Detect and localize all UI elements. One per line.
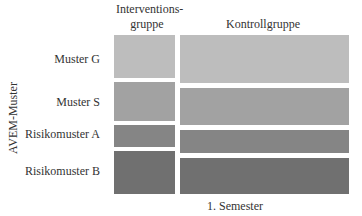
tile-kontroll-risikomuster-b (180, 158, 349, 194)
tile-kontroll-muster-s (180, 88, 349, 125)
tile-intervention-muster-s (114, 82, 175, 121)
tile-intervention-risikomuster-b (114, 151, 175, 194)
column-label-intervention: Interventions- gruppe (116, 2, 178, 32)
tile-kontroll-muster-g (180, 35, 349, 83)
column-label-intervention-line1: Interventions- (116, 2, 178, 17)
tile-intervention-muster-g (114, 35, 175, 78)
tile-kontroll-risikomuster-a (180, 130, 349, 153)
column-label-kontroll: Kontrollgruppe (226, 17, 300, 32)
x-axis-label: 1. Semester (207, 199, 263, 214)
y-axis-label: AVEM-Muster (6, 82, 21, 154)
tile-intervention-risikomuster-a (114, 125, 175, 147)
row-label-risikomuster-b: Risikomuster B (0, 164, 100, 179)
row-label-muster-g: Muster G (0, 52, 100, 67)
column-label-intervention-line2: gruppe (116, 17, 178, 32)
